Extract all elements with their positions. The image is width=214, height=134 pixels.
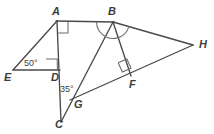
segments-group: [13, 21, 193, 122]
geometry-figure: A B H E D F G C 50° 35°: [0, 0, 214, 134]
vertex-label-D: D: [51, 72, 59, 83]
right-angle-at-A: [57, 22, 68, 33]
vertex-label-A: A: [52, 6, 60, 17]
angle-label-E-50: 50°: [24, 59, 38, 68]
vertex-label-G: G: [74, 99, 83, 110]
vertex-label-C: C: [55, 119, 63, 130]
vertex-label-E: E: [4, 72, 11, 83]
segment-BF: [113, 22, 131, 76]
segment-AB: [56, 21, 114, 22]
right-angle-at-D: [46, 59, 57, 70]
angle-label-G-35: 35°: [60, 85, 74, 94]
arc-angle-ABG: [96, 22, 106, 37]
vertex-label-B: B: [108, 6, 116, 17]
segment-GH: [70, 45, 193, 100]
vertex-label-H: H: [199, 39, 207, 50]
vertex-label-F: F: [129, 79, 136, 90]
